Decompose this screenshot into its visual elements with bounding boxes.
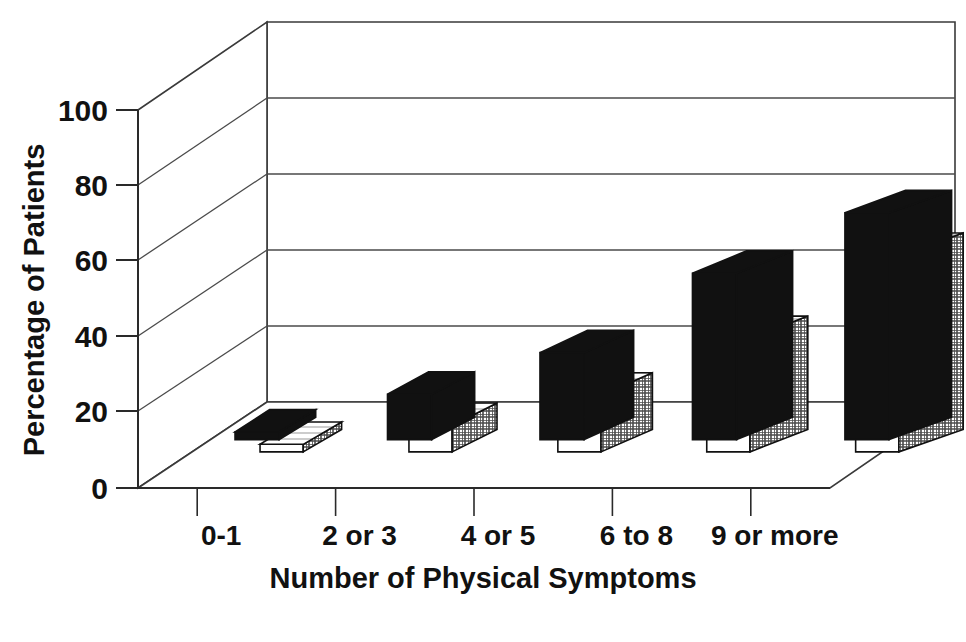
- bar-face-front: [387, 394, 431, 439]
- bar-face-front: [260, 444, 303, 452]
- bar-series-1-black-2: [540, 330, 634, 439]
- bar-face-side: [889, 190, 951, 439]
- x-tick-label-0: 0-1: [201, 520, 241, 551]
- bar-face-front: [845, 213, 889, 440]
- y-tick-label-40: 40: [75, 320, 108, 353]
- bar-chart-3d: 100 80 60 40 20 0 0-12 or 34 or 56 to 89…: [0, 0, 966, 642]
- y-axis-title: Percentage of Patients: [18, 144, 50, 457]
- x-tick-label-2: 4 or 5: [461, 520, 536, 551]
- bar-face-front: [692, 273, 736, 439]
- bar-series-1-black-3: [692, 251, 792, 440]
- bar-series-1-black-4: [845, 190, 952, 439]
- y-tick-label-0: 0: [91, 472, 108, 505]
- x-tick-label-4: 9 or more: [711, 520, 839, 551]
- y-tick-label-60: 60: [75, 244, 108, 277]
- x-tick-label-3: 6 to 8: [600, 520, 673, 551]
- x-axis-title: Number of Physical Symptoms: [269, 562, 696, 594]
- bar-face-side: [737, 251, 793, 440]
- bar-group-4: [845, 190, 963, 451]
- bar-face-front: [235, 432, 279, 440]
- y-tick-label-80: 80: [75, 169, 108, 202]
- y-tick-label-20: 20: [75, 395, 108, 428]
- chart-root: 100 80 60 40 20 0 0-12 or 34 or 56 to 89…: [0, 0, 966, 642]
- y-tick-label-100: 100: [58, 94, 108, 127]
- x-tick-label-1: 2 or 3: [322, 520, 397, 551]
- bar-group-3: [692, 251, 807, 452]
- bar-face-front: [540, 353, 584, 440]
